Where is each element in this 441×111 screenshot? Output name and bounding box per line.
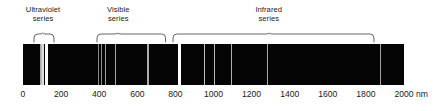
axis-tick-label: 1200 [242,89,261,99]
axis-unit-label: nm [416,89,428,99]
spectral-line [231,44,232,85]
axis-tick-label: 0 [21,89,26,99]
spectral-line [98,44,99,85]
axis-tick-label: 1600 [318,89,337,99]
spectral-line [101,44,102,85]
wavelength-axis [23,85,404,86]
brace-path [34,33,54,42]
spectral-line [204,44,205,85]
brace-path [173,33,374,42]
spectral-line [178,44,181,85]
spectrum-band [23,44,404,85]
brace-visible [97,33,166,42]
series-label-ultraviolet: Ultraviolet series [12,6,74,23]
axis-tick-label: 1000 [204,89,223,99]
axis-tick-label: 1800 [356,89,375,99]
spectral-line [380,44,381,85]
spectral-line [42,44,44,85]
axis-tick-label: 800 [168,89,182,99]
series-label-infrared: Infrared series [241,6,297,23]
axis-tick-label: 200 [54,89,68,99]
series-label-visible: Visible series [90,6,146,23]
axis-tick-label: 600 [130,89,144,99]
spectral-line [267,44,268,85]
brace-path [97,33,166,42]
spectrum-figure: Ultraviolet series Visible series Infrar… [0,0,441,111]
spectral-line [115,44,116,85]
spectral-line [45,44,48,85]
axis-tick-label: 2000 [394,89,413,99]
spectral-line [214,44,215,85]
spectral-line [105,44,106,85]
spectral-line [147,44,148,85]
brace-infrared [173,33,374,42]
axis-tick-label: 400 [92,89,106,99]
axis-tick-label: 1400 [280,89,299,99]
brace-ultraviolet [34,33,54,42]
